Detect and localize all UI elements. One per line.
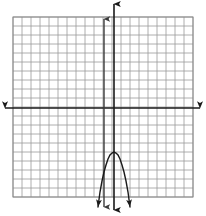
graph-canvas	[0, 0, 206, 216]
graph-figure	[0, 0, 206, 216]
grid-lines	[13, 17, 193, 197]
